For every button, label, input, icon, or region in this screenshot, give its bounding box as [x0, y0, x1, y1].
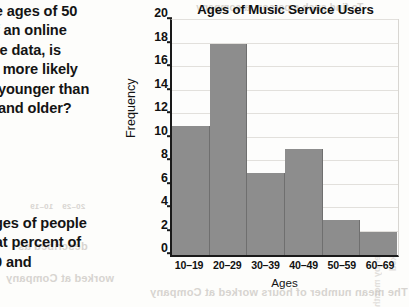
y-tick-mark: [167, 18, 172, 20]
plot-area: 02468101214161820: [170, 19, 399, 257]
y-tick-label: 18: [154, 30, 168, 44]
bar-40-49: [285, 149, 323, 255]
question-top-line-1: of an online: [0, 21, 136, 40]
x-axis-label: Ages: [170, 276, 399, 289]
y-axis-label: Frequency: [124, 78, 138, 138]
question-bottom-line-1: hat percent of: [0, 233, 136, 252]
question-text-top: he ages of 50 of an online the data, is …: [0, 2, 136, 118]
question-top-line-2: the data, is: [0, 41, 136, 60]
bar-20-29: [210, 44, 248, 256]
bleed-through-text: worked at Company: [6, 272, 114, 284]
y-tick-label: 20: [154, 6, 168, 20]
question-bottom-line-2: 20 and: [0, 253, 136, 272]
bleed-through-text: 20–29: [62, 202, 85, 211]
x-tick-label: 30–39: [246, 259, 284, 271]
question-top-line-5: 0 and older?: [0, 99, 136, 118]
chart-title: Ages of Music Service Users: [162, 2, 409, 17]
y-tick-label: 12: [154, 100, 168, 114]
bar-60-69: [360, 232, 397, 256]
x-tick-label: 10–19: [170, 259, 208, 271]
question-bottom-line-0: ages of people: [0, 214, 136, 233]
bleed-through-text: 10–19: [30, 202, 53, 211]
bar-50-59: [323, 220, 361, 255]
bar-30-39: [247, 173, 285, 255]
y-tick-label: 14: [154, 77, 168, 91]
bar-series: [172, 20, 397, 255]
x-tick-label: 40–49: [285, 259, 323, 271]
y-tick-label: 16: [154, 53, 168, 67]
x-axis-ticks: 10–1920–2930–3940–4950–5960–69: [170, 259, 399, 271]
question-top-line-3: te more likely: [0, 60, 136, 79]
y-tick-label: 10: [154, 124, 168, 138]
question-top-line-0: he ages of 50: [0, 2, 136, 21]
question-text-bottom: ages of people hat percent of 20 and: [0, 214, 136, 272]
x-tick-label: 20–29: [208, 259, 246, 271]
histogram-chart: Ages of Music Service Users Frequency 02…: [128, 0, 409, 305]
x-tick-label: 50–59: [323, 259, 361, 271]
bar-10-19: [172, 126, 210, 255]
x-tick-label: 60–69: [361, 259, 399, 271]
question-top-line-4: e younger than: [0, 80, 136, 99]
